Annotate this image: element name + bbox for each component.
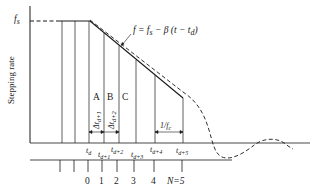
svg-text:td+5: td+5 — [176, 146, 188, 156]
svg-text:td+1: td+1 — [98, 150, 110, 160]
stepping-rate-diagram: Stepping rate fs f = fs − β (t − td) A B… — [0, 0, 317, 191]
svg-text:3: 3 — [131, 176, 136, 186]
svg-text:td+4: td+4 — [150, 145, 162, 155]
region-label-b: B — [107, 92, 113, 102]
svg-text:td+3: td+3 — [131, 150, 143, 160]
svg-text:2: 2 — [114, 176, 119, 186]
svg-text:1: 1 — [99, 176, 104, 186]
svg-text:td: td — [86, 146, 92, 156]
period-label: 1/fc — [160, 121, 171, 131]
step-ticks — [60, 160, 182, 172]
dashed-response-curve — [90, 20, 293, 158]
svg-text:0: 0 — [85, 176, 90, 186]
delta-t-d1-label: Δtd+1 — [92, 111, 102, 130]
y-axis-label: Stepping rate — [6, 56, 16, 104]
delta-t-d2-label: Δtd+2 — [107, 110, 117, 130]
svg-text:td+2: td+2 — [111, 145, 123, 155]
svg-text:N=5: N=5 — [166, 176, 185, 186]
region-label-c: C — [122, 92, 128, 102]
svg-text:4: 4 — [151, 176, 156, 186]
time-labels: td td+1 td+2 td+3 td+4 td+5 — [86, 145, 188, 160]
region-label-a: A — [93, 92, 100, 102]
step-numbers: 0 1 2 3 4 N=5 — [85, 176, 185, 186]
slope-equation: f = fs − β (t − td) — [133, 25, 198, 37]
fs-label: fs — [14, 14, 20, 26]
